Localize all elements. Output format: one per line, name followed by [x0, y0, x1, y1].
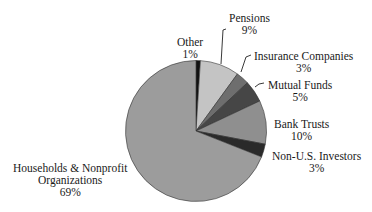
label-households-name: Households & Nonprofit [13, 162, 127, 174]
pie-slices [126, 60, 267, 201]
leader-line-insurance [241, 55, 251, 72]
label-mutual: Mutual Funds 5% [268, 79, 332, 103]
label-bank-pct: 10% [274, 130, 329, 142]
label-mutual-pct: 5% [268, 91, 332, 103]
label-bank: Bank Trusts 10% [274, 118, 329, 142]
label-pensions-name: Pensions [229, 12, 270, 24]
label-nonus-name: Non-U.S. Investors [272, 150, 361, 162]
leader-line-mutual [255, 83, 264, 87]
label-insurance-pct: 3% [254, 62, 353, 74]
label-other-name: Other [177, 36, 203, 48]
label-other-pct: 1% [177, 48, 203, 60]
label-bank-name: Bank Trusts [274, 118, 329, 130]
label-pensions: Pensions 9% [229, 12, 270, 36]
pie-chart: Other 1% Pensions 9% Insurance Companies… [0, 0, 372, 212]
label-households-name-2: Organizations [13, 174, 127, 186]
leader-line-pensions [221, 29, 226, 64]
label-households: Households & Nonprofit Organizations 69% [13, 162, 127, 198]
label-nonus: Non-U.S. Investors 3% [272, 150, 361, 174]
label-other: Other 1% [177, 36, 203, 60]
label-mutual-name: Mutual Funds [268, 79, 332, 91]
label-insurance-name: Insurance Companies [254, 50, 353, 62]
label-insurance: Insurance Companies 3% [254, 50, 353, 74]
label-nonus-pct: 3% [272, 162, 361, 174]
label-pensions-pct: 9% [229, 24, 270, 36]
label-households-pct: 69% [13, 186, 127, 198]
